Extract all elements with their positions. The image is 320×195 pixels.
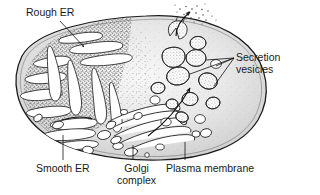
label-plasma-membrane: Plasma membrane: [166, 163, 254, 175]
label-rough-er: Rough ER: [26, 7, 74, 19]
label-golgi-complex: Golgi complex: [117, 163, 156, 186]
label-smooth-er: Smooth ER: [36, 163, 90, 175]
label-secretion-vesicles: Secretion vesicles: [236, 52, 280, 75]
